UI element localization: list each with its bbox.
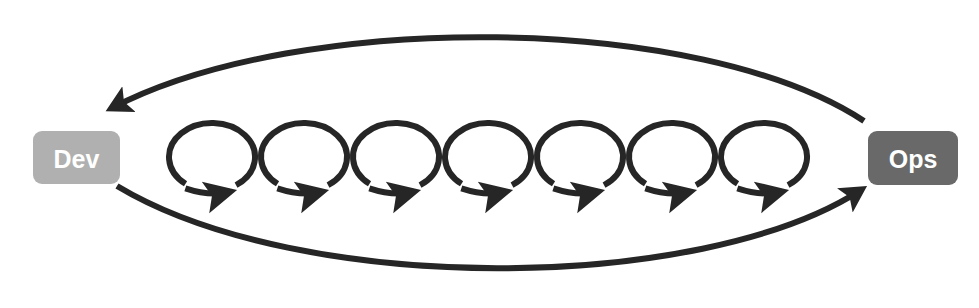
loop-arrow bbox=[553, 188, 598, 193]
diagram-svg: DevOps bbox=[0, 0, 979, 308]
loop-arrow bbox=[369, 188, 414, 193]
ops-node[interactable]: Ops bbox=[868, 131, 958, 185]
loop-arrow bbox=[737, 188, 782, 193]
loop-arc bbox=[353, 123, 439, 185]
ops-to-dev-arc bbox=[112, 37, 864, 121]
dev-node[interactable]: Dev bbox=[33, 131, 120, 184]
ops-node-label: Ops bbox=[889, 145, 938, 173]
arc-layer bbox=[112, 37, 864, 268]
loop-arc bbox=[537, 123, 623, 185]
loop-arc bbox=[445, 123, 531, 185]
loop-arc bbox=[721, 123, 807, 185]
loop-arc bbox=[169, 123, 255, 185]
devops-diagram: DevOps bbox=[0, 0, 979, 308]
loop-arrow bbox=[277, 188, 322, 193]
dev-node-label: Dev bbox=[54, 145, 100, 173]
loop-arc bbox=[629, 123, 715, 185]
dev-to-ops-arc bbox=[117, 186, 861, 268]
loop-arrow bbox=[461, 188, 506, 193]
loop-layer bbox=[169, 123, 807, 193]
loop-arc bbox=[261, 123, 347, 185]
loop-arrow bbox=[185, 188, 230, 193]
loop-arrow bbox=[645, 188, 690, 193]
